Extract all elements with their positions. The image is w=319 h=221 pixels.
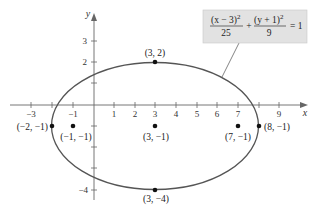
x-tick-label: 3 (153, 109, 158, 119)
x-tick-label: −1 (68, 109, 78, 119)
annotation-pointer (222, 43, 239, 77)
equation-box: (x − 3)2 25 + (y + 1)2 9 = 1 (203, 10, 307, 43)
point-label: (3, 2) (145, 48, 166, 59)
point-label: (−2, −1) (17, 122, 48, 133)
point-left-focus (71, 124, 76, 129)
point-center (153, 124, 158, 129)
equation-denominator-1: 25 (221, 28, 231, 38)
x-tick-label: 2 (133, 109, 138, 119)
x-tick-label: 5 (195, 109, 200, 119)
y-tick-label: −4 (78, 185, 88, 195)
equation-equals: = 1 (290, 21, 303, 31)
point-bottom-vertex (153, 188, 158, 193)
y-axis-label: y (85, 8, 91, 19)
x-tick-label: 6 (215, 109, 220, 119)
point-label: (8, −1) (264, 122, 290, 133)
x-tick-label: 9 (277, 109, 282, 119)
equation-denominator-2: 9 (267, 28, 272, 38)
x-axis-label: x (302, 107, 308, 118)
x-tick-label: 4 (174, 109, 179, 119)
x-tick-label: 1 (112, 109, 117, 119)
point-label: (7, −1) (225, 132, 251, 143)
y-axis-arrow-icon (91, 13, 97, 21)
point-label: (−1, −1) (60, 132, 91, 143)
point-left-vertex (50, 124, 55, 129)
equation-numerator-2: (y + 1)2 (254, 13, 284, 26)
y-tick-label: 2 (83, 57, 88, 67)
x-tick-label: 7 (236, 109, 241, 119)
ellipse-chart: −3 −1 1 2 3 4 5 6 7 9 x 3 2 −4 y (0, 0, 319, 221)
equation-numerator-1: (x − 3)2 (211, 13, 241, 26)
y-tick-label: 3 (83, 36, 88, 46)
point-right-vertex (257, 124, 262, 129)
point-right-focus (236, 124, 241, 129)
point-top-vertex (153, 60, 158, 65)
point-label: (3, −4) (143, 194, 169, 205)
data-points (50, 60, 262, 193)
x-tick-label: −3 (26, 109, 36, 119)
equation-plus: + (246, 21, 251, 31)
point-label: (3, −1) (143, 132, 169, 143)
